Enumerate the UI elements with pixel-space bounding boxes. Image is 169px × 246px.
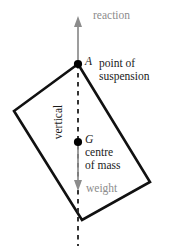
point-marker-g	[74, 138, 82, 146]
point-g-label: G	[85, 133, 93, 146]
reaction-label: reaction	[93, 9, 130, 22]
point-of-suspension-label: point of suspension	[99, 57, 149, 83]
reaction-arrow-head	[74, 16, 82, 27]
point-a-label: A	[85, 55, 92, 68]
weight-label: weight	[86, 182, 117, 195]
diagram-canvas: reaction A point of suspension vertical …	[0, 0, 169, 246]
diagram-svg	[0, 0, 169, 246]
vertical-label: vertical	[52, 92, 65, 152]
centre-of-mass-label: centre of mass	[85, 146, 120, 172]
point-marker-a	[74, 60, 82, 68]
